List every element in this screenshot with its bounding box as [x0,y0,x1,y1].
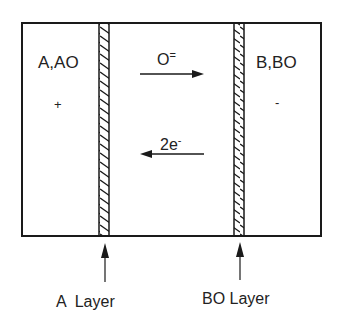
svg-text:2e-: 2e- [160,134,182,153]
electron-charge: - [178,134,182,146]
electron-flow-arrow: 2e- [140,134,204,158]
oxide-ion-label: O [157,51,169,68]
bo-layer-membrane [234,23,244,236]
bo-layer-label: BO Layer [202,290,270,307]
negative-sign: - [275,95,279,110]
bo-layer-pointer-arrow [236,242,244,280]
svg-text:O=: O= [157,49,176,68]
oxide-ion-charge: = [169,49,175,61]
a-layer-pointer-arrow [101,243,109,282]
a-layer-membrane [99,23,109,236]
positive-sign: + [54,97,62,112]
left-region-label: A,AO [38,53,79,72]
right-region-label: B,BO [256,53,297,72]
a-layer-label: A Layer [56,293,115,310]
cell-diagram: A,AO + B,BO - O= 2e- A Layer BO Layer [0,0,340,331]
oxide-ion-flow-arrow: O= [140,49,204,78]
electron-label: 2e [160,136,178,153]
